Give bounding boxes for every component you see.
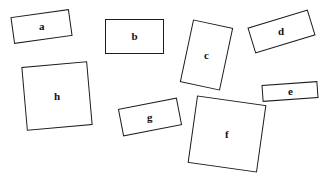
shape-h[interactable]: h [21,61,92,131]
shape-label-b: b [131,31,137,42]
shape-label-h: h [54,91,60,102]
shape-f[interactable]: f [188,95,267,172]
shape-canvas: abcdefgh [0,0,325,180]
shape-label-g: g [147,112,153,123]
shape-e[interactable]: e [261,81,318,102]
shape-d[interactable]: d [247,9,315,53]
shape-label-a: a [39,21,45,32]
shape-label-d: d [278,26,284,37]
shape-b[interactable]: b [105,19,164,54]
shape-a[interactable]: a [10,9,72,44]
shape-label-e: e [288,86,293,97]
shape-g[interactable]: g [118,98,182,137]
shape-label-c: c [204,49,209,60]
shape-label-f: f [225,128,229,139]
shape-c[interactable]: c [180,19,233,90]
